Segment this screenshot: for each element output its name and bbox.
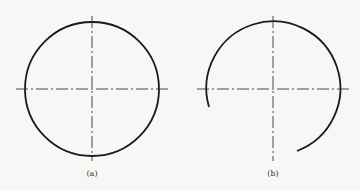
panel-label-b: (b): [267, 169, 278, 178]
figure-canvas: (a) (b): [0, 0, 360, 190]
panel-b: (b): [197, 16, 349, 178]
panel-a: (a): [16, 16, 168, 178]
panel-label-a: (a): [86, 169, 97, 178]
